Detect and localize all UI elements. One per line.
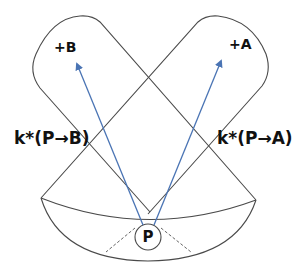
label-k-p-to-b: k*(P→B) xyxy=(14,130,89,147)
label-p: P xyxy=(135,224,161,250)
label-point-a: +A xyxy=(229,37,252,51)
label-k-p-to-a: k*(P→A) xyxy=(217,130,293,147)
sector-upper-arc xyxy=(41,198,256,220)
dashed-line-right xyxy=(161,228,191,252)
dashed-line-left xyxy=(106,228,135,252)
label-point-b: +B xyxy=(54,40,76,54)
